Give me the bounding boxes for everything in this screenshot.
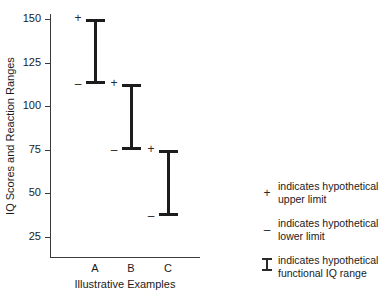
legend-line-1: indicates hypothetical: [278, 254, 378, 266]
y-axis-title-container: IQ Scores and Reaction Ranges: [0, 14, 16, 258]
category-label-C: C: [153, 262, 183, 274]
y-tick-100: 100: [45, 106, 50, 107]
y-tick-label-125: 125: [23, 56, 41, 69]
y-tick-label-75: 75: [29, 143, 41, 156]
plus-icon: +: [260, 180, 274, 200]
upper-limit-mark-A: +: [71, 13, 85, 23]
lower-limit-mark-A: –: [71, 79, 85, 89]
y-axis-line: [50, 14, 51, 258]
range-cap-top-B: [122, 84, 141, 87]
lower-limit-mark-C: –: [144, 211, 158, 221]
category-label-B: B: [116, 262, 146, 274]
y-tick-label-150: 150: [23, 12, 41, 25]
range-stem-C: [167, 150, 170, 216]
legend-line-1: indicates hypothetical: [278, 180, 378, 192]
y-tick-label-50: 50: [29, 186, 41, 199]
y-tick-label-100: 100: [23, 99, 41, 112]
legend-line-1: indicates hypothetical: [278, 217, 378, 229]
range-stem-A: [94, 19, 97, 84]
y-tick-label-25: 25: [29, 230, 41, 243]
category-label-A: A: [80, 262, 110, 274]
upper-limit-mark-C: +: [144, 144, 158, 154]
legend-line-2: upper limit: [278, 193, 387, 206]
lower-limit-mark-B: –: [107, 145, 121, 155]
x-axis-line: [50, 257, 200, 258]
plot-area: 150125100755025 +–+–+–: [50, 14, 200, 258]
legend-item-3: indicates hypotheticalfunctional IQ rang…: [260, 254, 387, 280]
upper-limit-mark-B: +: [107, 78, 121, 88]
minus-icon: –: [260, 217, 274, 237]
ibeam-range-icon: [260, 254, 274, 280]
range-cap-top-C: [159, 150, 178, 153]
y-tick-25: 25: [45, 237, 50, 238]
legend-line-2: functional IQ range: [278, 267, 387, 280]
figure-container: IQ Scores and Reaction Ranges 1501251007…: [0, 0, 387, 296]
y-tick-75: 75: [45, 150, 50, 151]
legend: +indicates hypotheticalupper limit–indic…: [260, 180, 387, 291]
x-axis-title: Illustrative Examples: [50, 278, 200, 290]
legend-item-1: +indicates hypotheticalupper limit: [260, 180, 387, 206]
range-cap-bottom-C: [159, 213, 178, 216]
legend-item-label-1: indicates hypotheticalupper limit: [274, 180, 387, 205]
range-stem-B: [130, 84, 133, 150]
legend-item-label-2: indicates hypotheticallower limit: [274, 217, 387, 242]
y-axis-title: IQ Scores and Reaction Ranges: [2, 14, 18, 258]
range-cap-top-A: [86, 19, 105, 22]
y-tick-125: 125: [45, 63, 50, 64]
legend-item-label-3: indicates hypotheticalfunctional IQ rang…: [274, 254, 387, 279]
range-cap-bottom-B: [122, 147, 141, 150]
range-cap-bottom-A: [86, 81, 105, 84]
legend-item-2: –indicates hypotheticallower limit: [260, 217, 387, 243]
y-tick-150: 150: [45, 19, 50, 20]
legend-line-2: lower limit: [278, 230, 387, 243]
y-tick-50: 50: [45, 193, 50, 194]
